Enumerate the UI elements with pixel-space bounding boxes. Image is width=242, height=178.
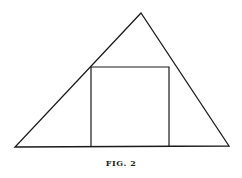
inscribed-square-shape <box>91 67 169 147</box>
figure-canvas: FIG. 2 <box>0 0 242 178</box>
triangle-shape <box>15 13 229 147</box>
figure-caption: FIG. 2 <box>0 158 242 168</box>
figure-drawing <box>0 0 242 178</box>
